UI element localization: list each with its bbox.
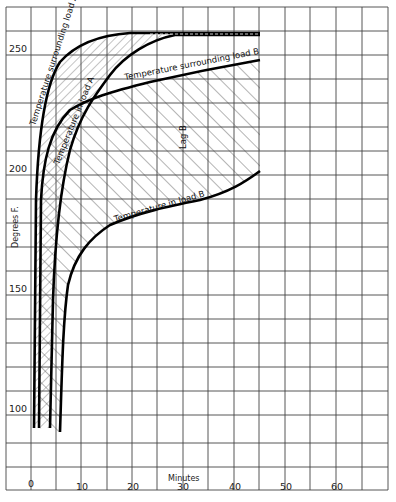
x-tick-50: 50	[280, 481, 292, 492]
x-tick-0: 0	[28, 478, 34, 489]
y-tick-100: 100	[9, 403, 27, 414]
y-tick-200: 200	[9, 163, 27, 174]
y-tick-150: 150	[9, 283, 27, 294]
x-tick-10: 10	[76, 481, 88, 492]
x-tick-60: 60	[331, 481, 343, 492]
x-tick-20: 20	[127, 481, 139, 492]
y-axis-title: Degrees F.	[11, 206, 20, 248]
x-tick-40: 40	[229, 481, 241, 492]
label-lag-b: Lag B	[178, 125, 188, 149]
chart-canvas: 250 200 150 100 Degrees F. 0 10 20 30 40…	[0, 0, 396, 502]
y-tick-250: 250	[9, 43, 27, 54]
x-axis-title: Minutes	[168, 474, 200, 483]
